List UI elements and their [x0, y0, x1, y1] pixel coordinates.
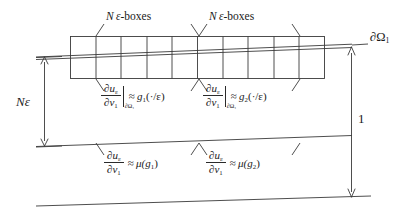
formula-lower-right-fraction: ∂uε ∂ν1 [206, 150, 226, 176]
formula-upper-right: ∂uε ∂ν1 ∂Ω₁ ≈ g2(·/ε) [203, 83, 267, 109]
lower-left-rhs: ≈ μ(g1) [128, 157, 158, 170]
lower-left-numerator: ∂uε [104, 150, 124, 162]
boundary-curve-upper [36, 44, 352, 59]
epsilon-box-grid [71, 37, 325, 79]
upper-right-restriction-bar: ∂Ω₁ [225, 86, 226, 107]
label-boundary-omega: ∂Ω1 [370, 31, 389, 45]
label-n-epsilon-boxes-left: N ε-boxes [106, 11, 151, 23]
upper-right-restriction-label: ∂Ω₁ [227, 103, 237, 109]
boxes-left-suffix: -boxes [121, 10, 152, 22]
boxes-left-n: N [106, 10, 114, 22]
formula-lower-left: ∂uε ∂ν1 ≈ μ(g1) [104, 150, 158, 176]
upper-right-rhs: ≈ g2(·/ε) [231, 90, 267, 103]
upper-left-rhs: ≈ g1(·/ε) [129, 90, 165, 103]
upper-left-restriction-label: ∂Ω₁ [125, 103, 135, 109]
upper-right-denominator: ∂ν1 [203, 95, 223, 109]
boundary-curve-lower [36, 196, 371, 206]
label-unit-height: 1 [358, 112, 365, 125]
lower-right-denominator: ∂ν1 [206, 162, 226, 176]
formula-upper-left-fraction: ∂uε ∂ν1 [101, 83, 121, 109]
measure-arrow-unit [348, 47, 355, 197]
boundary-curve-middle [36, 136, 352, 147]
label-n-epsilon-boxes-right: N ε-boxes [209, 11, 254, 23]
boxes-right-n: N [209, 10, 217, 22]
upper-left-numerator: ∂uε [101, 83, 121, 95]
lower-right-rhs: ≈ μ(g2) [230, 157, 260, 170]
formula-upper-right-fraction: ∂uε ∂ν1 [203, 83, 223, 109]
lower-left-denominator: ∂ν1 [104, 162, 124, 176]
boxes-right-suffix: -boxes [224, 10, 255, 22]
formula-lower-right: ∂uε ∂ν1 ≈ μ(g2) [206, 150, 260, 176]
upper-left-denominator: ∂ν1 [101, 95, 121, 109]
figure-canvas: N ε-boxes N ε-boxes Nε ∂Ω1 1 ∂uε ∂ν1 ∂Ω₁… [0, 0, 407, 215]
upper-right-numerator: ∂uε [203, 83, 223, 95]
lower-right-numerator: ∂uε [206, 150, 226, 162]
formula-upper-left: ∂uε ∂ν1 ∂Ω₁ ≈ g1(·/ε) [101, 83, 165, 109]
leader-ticks-top [96, 24, 300, 36]
boundary-subscript: 1 [385, 36, 389, 45]
boundary-symbol: ∂Ω [370, 30, 385, 44]
label-n-epsilon-measure: Nε [16, 95, 30, 108]
leader-line-boundary-label [352, 44, 368, 45]
upper-left-restriction-bar: ∂Ω₁ [123, 86, 124, 107]
measure-reference-ticks [36, 57, 62, 148]
formula-lower-left-fraction: ∂uε ∂ν1 [104, 150, 124, 176]
measure-arrow-n-epsilon [41, 57, 48, 146]
